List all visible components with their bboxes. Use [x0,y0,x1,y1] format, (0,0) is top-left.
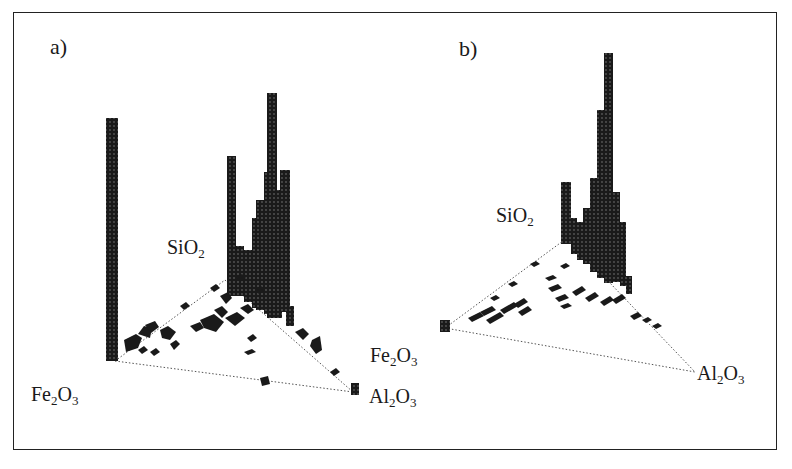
panel-a-plot [106,93,359,395]
panel-a-axes [115,280,353,392]
panel-b-scatter [468,261,662,329]
panel-b-bar-fe2o3 [440,320,450,332]
panel-b-bar-cluster [561,53,632,294]
panel-b-label-fe2o3: Fe2O3 [370,345,417,365]
panel-a-label-sio2: SiO2 [167,237,205,257]
panel-a-bar-al2o3 [351,383,359,395]
panel-a-label-fe2o3: Fe2O3 [31,384,78,404]
panel-a-bar-fe2o3 [106,118,118,361]
panel-b-plot [440,53,695,372]
panel-a-label-al2o3: Al2O3 [369,386,416,406]
panel-b-label-sio2: SiO2 [496,205,534,225]
panel-b-label-al2o3: Al2O3 [697,363,744,383]
